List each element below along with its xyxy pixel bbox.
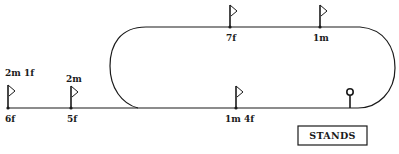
flag-marker-2m1f: 2m 1f 6f	[5, 68, 35, 124]
racecourse-diagram: 2m 1f 6f 2m 5f 7f 1m 1m 4f STANDS	[0, 0, 399, 154]
winning-post-icon	[347, 89, 353, 108]
right-bend	[358, 27, 395, 108]
flag-marker-7f: 7f	[226, 5, 237, 43]
track	[7, 27, 395, 108]
flag-marker-1m4f: 1m 4f	[225, 86, 255, 124]
label-1m: 1m	[313, 33, 329, 43]
label-5f: 5f	[67, 114, 78, 124]
label-6f: 6f	[5, 114, 16, 124]
flag-marker-2m: 2m 5f	[66, 74, 82, 124]
flag-marker-1m: 1m	[313, 5, 329, 43]
stands-label: STANDS	[309, 130, 355, 141]
left-bend	[110, 27, 146, 108]
label-1m4f: 1m 4f	[225, 114, 255, 124]
label-2m1f: 2m 1f	[5, 68, 35, 78]
label-2m: 2m	[66, 74, 82, 84]
label-7f: 7f	[226, 33, 237, 43]
stands-box: STANDS	[298, 126, 367, 145]
